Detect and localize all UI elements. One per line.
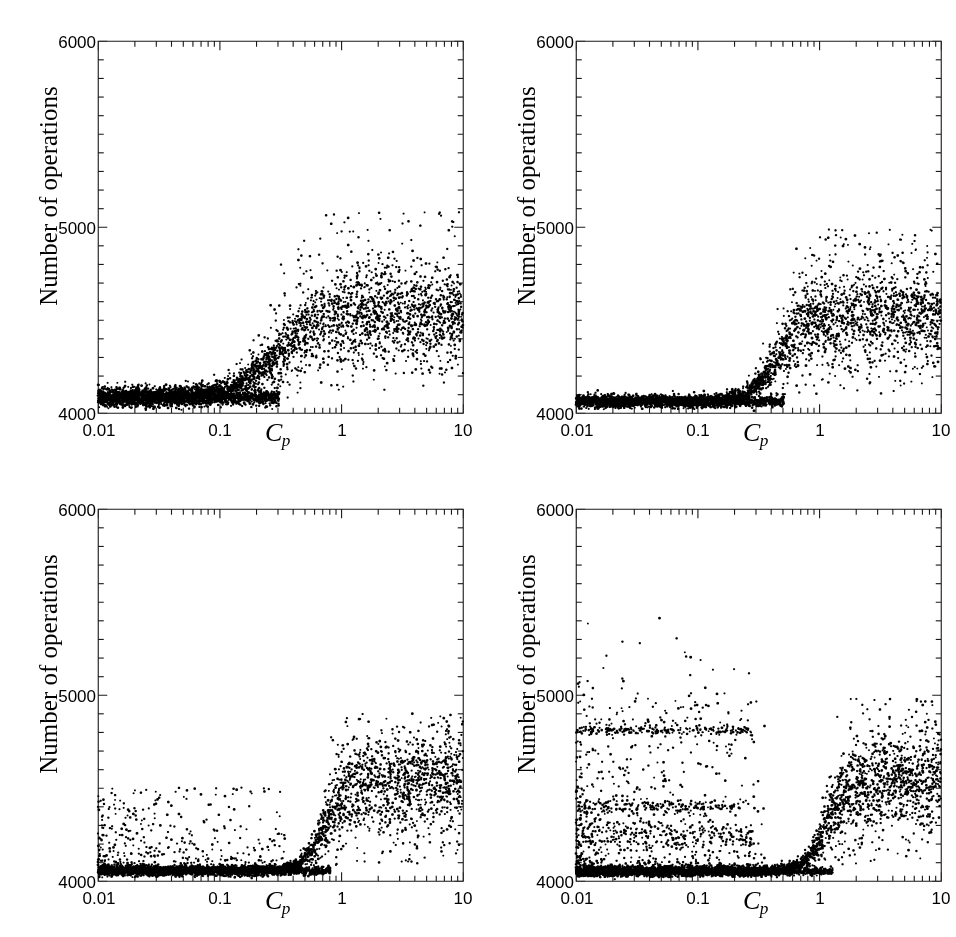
panel-top-right: Number of operations 6000 5000 4000 0.01… [478, 0, 956, 468]
x-axis-label-sub-1: p [760, 431, 769, 450]
y-axis-label-3: Number of operations [513, 514, 541, 814]
y-tick-6000-2: 6000 [52, 501, 96, 521]
y-tick-5000-0: 5000 [52, 219, 96, 239]
x-tick-0.01-3: 0.01 [560, 889, 593, 909]
four-panel-scatter-figure: Number of operations 6000 5000 4000 0.01… [0, 0, 956, 937]
x-tick-0.01-2: 0.01 [82, 889, 115, 909]
y-tick-6000-3: 6000 [530, 501, 574, 521]
y-tick-5000-1: 5000 [530, 219, 574, 239]
x-axis-label-main-1: C [743, 418, 760, 447]
x-tick-0.1-0: 0.1 [208, 421, 232, 441]
x-tick-1-3: 1 [815, 889, 824, 909]
x-axis-label-2: Cp [265, 886, 290, 919]
x-tick-0.1-3: 0.1 [686, 889, 710, 909]
y-tick-5000-2: 5000 [52, 687, 96, 707]
x-axis-label-main-0: C [265, 418, 282, 447]
x-tick-0.1-2: 0.1 [208, 889, 232, 909]
panel-top-left: Number of operations 6000 5000 4000 0.01… [0, 0, 478, 468]
x-tick-0.1-1: 0.1 [686, 421, 710, 441]
x-tick-1-0: 1 [337, 421, 346, 441]
y-axis-label-2: Number of operations [35, 514, 63, 814]
y-axis-label-0: Number of operations [35, 46, 63, 346]
x-axis-label-main-3: C [743, 886, 760, 915]
x-tick-10-2: 10 [454, 889, 473, 909]
panel-bottom-left: Number of operations 6000 5000 4000 0.01… [0, 468, 478, 936]
y-axis-label-1: Number of operations [513, 46, 541, 346]
x-tick-0.01-1: 0.01 [560, 421, 593, 441]
y-tick-5000-3: 5000 [530, 687, 574, 707]
y-tick-6000-0: 6000 [52, 33, 96, 53]
panel-bottom-right: Number of operations 6000 5000 4000 0.01… [478, 468, 956, 936]
x-axis-label-sub-0: p [282, 431, 291, 450]
x-tick-10-1: 10 [932, 421, 951, 441]
x-tick-1-1: 1 [815, 421, 824, 441]
x-axis-label-0: Cp [265, 418, 290, 451]
x-axis-label-sub-2: p [282, 899, 291, 918]
x-axis-label-1: Cp [743, 418, 768, 451]
x-axis-label-3: Cp [743, 886, 768, 919]
x-tick-10-0: 10 [454, 421, 473, 441]
x-tick-1-2: 1 [337, 889, 346, 909]
y-tick-6000-1: 6000 [530, 33, 574, 53]
x-axis-label-sub-3: p [760, 899, 769, 918]
x-tick-10-3: 10 [932, 889, 951, 909]
x-tick-0.01-0: 0.01 [82, 421, 115, 441]
x-axis-label-main-2: C [265, 886, 282, 915]
